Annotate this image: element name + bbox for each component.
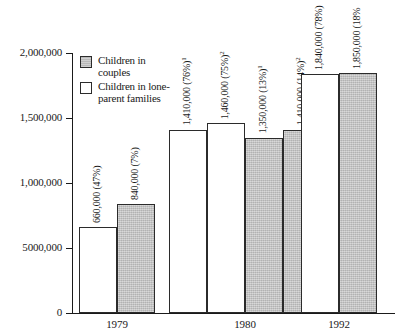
legend-item-couples: Children in couples [80,55,174,78]
bar [79,227,117,313]
bar-value-label: 840,000 (7%) [130,147,140,200]
bar [301,74,339,313]
x-axis-category-label: 1979 [87,318,147,330]
y-axis-tick [66,183,73,184]
chart-legend: Children in couples Children in lone-par… [80,55,174,107]
bar-chart: 2,000,0001,500,0001,000,0005000,0000 660… [0,0,402,334]
legend-swatch-lone-parent-icon [80,82,92,94]
y-axis-tick [66,313,73,314]
y-axis-tick-label: 2,000,000 [0,47,62,58]
bar [117,204,155,313]
bar-value-label: 1,460,000 (75%)2 [217,51,230,119]
y-axis-tick-label: 0 [0,307,62,318]
legend-item-lone-parent: Children in lone-parent families [80,81,174,104]
legend-label-lone-parent: Children in lone-parent families [98,81,174,104]
y-axis-tick-label: 1,000,000 [0,177,62,188]
y-axis-tick [66,118,73,119]
bar [207,123,245,313]
bar [245,138,283,314]
bar-value-label: 1,350,000 (13%)1 [255,66,268,134]
y-axis-tick [66,53,73,54]
bar-value-label: 660,000 (47%) [92,166,102,223]
y-axis-tick-label: 1,500,000 [0,112,62,123]
y-axis-tick-label: 5000,000 [0,242,62,253]
bar [169,130,207,313]
x-axis-line [72,313,395,314]
x-axis-category-label: 1980 [215,318,275,330]
y-axis-tick [66,248,73,249]
bar-value-label: 1,850,000 (18% [352,7,362,68]
legend-label-couples: Children in couples [98,55,174,78]
bar [339,73,377,314]
bar-value-label: 1,840,000 (78%) [314,5,324,70]
legend-swatch-couples-icon [80,56,92,68]
x-axis-category-label: 1992 [309,318,369,330]
bar-value-label: 1,410,000 (76%)1 [179,58,192,126]
